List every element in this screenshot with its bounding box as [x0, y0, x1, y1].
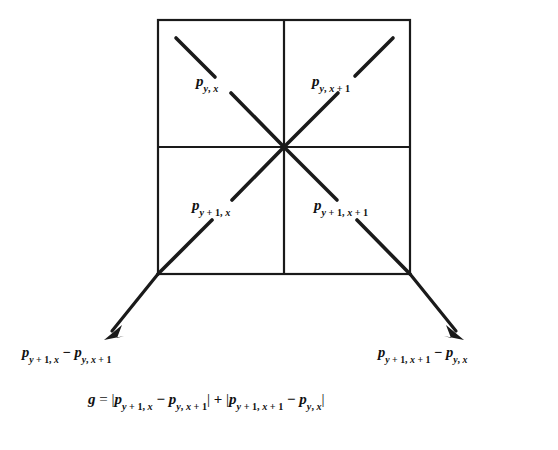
diff-left-subtrahend-subscript: y, x + 1: [82, 354, 112, 365]
diagonal-br-segment-upper: [284, 147, 337, 200]
formula-t1-minuend-base: p: [114, 391, 122, 407]
diff-left-subtrahend-base: p: [74, 344, 81, 360]
formula-t1-minuend-subscript: y + 1, x: [122, 401, 153, 412]
cell-label-top-left: py, x: [196, 74, 218, 92]
formula-t2-subtrahend-subscript: y, x: [307, 401, 322, 412]
diagonal-br-segment-lower: [357, 220, 410, 274]
formula-t2-minus: −: [283, 391, 299, 407]
diagonal-bl-segment-lower: [158, 220, 212, 274]
formula-t1-minus: −: [153, 391, 169, 407]
formula-g-symbol: g: [88, 391, 96, 407]
formula-t2-minuend-base: p: [229, 391, 237, 407]
diff-left-minuend-subscript: y + 1, x: [29, 354, 59, 365]
diff-right-subtrahend-subscript: y, x: [453, 354, 467, 365]
cell-label-top-right-subscript: y, x + 1: [320, 83, 351, 94]
diagonal-tr-segment-upper: [355, 38, 393, 76]
gradient-diagram-figure: [0, 0, 558, 450]
formula-t2-minuend-subscript: y + 1, x + 1: [237, 401, 284, 412]
diff-right-minus: −: [430, 344, 446, 360]
difference-label-left: py + 1, x − py, x + 1: [22, 345, 111, 363]
diff-left-minus: −: [59, 344, 75, 360]
diagonal-tl-segment-upper: [176, 38, 215, 77]
cell-label-bottom-right-subscript: y + 1, x + 1: [322, 207, 369, 218]
diagonal-tl-segment-lower: [231, 93, 284, 147]
gradient-formula: g = |py + 1, x − py, x + 1| + |py + 1, x…: [88, 392, 325, 410]
diff-right-minuend-subscript: y + 1, x + 1: [385, 354, 430, 365]
cell-label-top-left-base: p: [196, 73, 204, 89]
formula-t1-subtrahend-subscript: y, x + 1: [176, 401, 207, 412]
left-arrow-shaft: [112, 274, 158, 331]
cell-label-bottom-right: py + 1, x + 1: [314, 198, 368, 216]
diagonal-bl-segment-upper: [232, 147, 284, 200]
cell-label-top-left-subscript: y, x: [204, 83, 219, 94]
right-arrow: [410, 274, 464, 340]
cell-label-bottom-right-base: p: [314, 197, 322, 213]
formula-abs-close-2: |: [322, 391, 325, 407]
right-arrow-shaft: [410, 274, 456, 331]
cell-label-bottom-left-subscript: y + 1, x: [200, 207, 231, 218]
cell-label-top-right: py, x + 1: [312, 74, 350, 92]
difference-label-right: py + 1, x + 1 − py, x: [378, 345, 467, 363]
left-arrow: [104, 274, 158, 340]
diagonal-tr-segment-lower: [284, 93, 338, 147]
cell-label-bottom-left: py + 1, x: [192, 198, 230, 216]
formula-t2-subtrahend-base: p: [299, 391, 307, 407]
cell-label-bottom-left-base: p: [192, 197, 200, 213]
formula-plus: +: [210, 391, 226, 407]
cell-label-top-right-base: p: [312, 73, 320, 89]
formula-equals: =: [96, 391, 112, 407]
